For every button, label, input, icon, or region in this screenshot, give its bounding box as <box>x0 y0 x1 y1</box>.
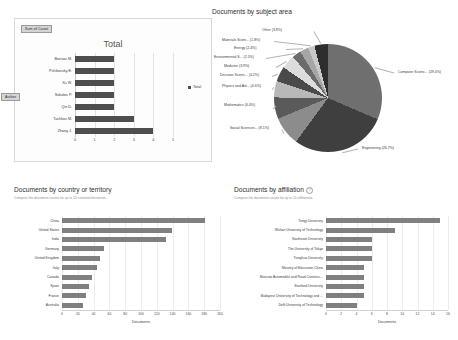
bar-category-label: Delft University of Technology <box>278 302 323 308</box>
bar-category-label: Stanford University <box>294 283 323 289</box>
bar <box>62 228 172 233</box>
bar-row[interactable]: United Kingdom <box>62 256 220 261</box>
bar <box>326 218 440 223</box>
bar <box>326 303 357 308</box>
pie-slice-label: Energy (2.4%) <box>234 46 256 51</box>
pivot-bar-row[interactable]: Sokolov P. <box>75 92 173 98</box>
pie-slice-label: Medicine (3.9%) <box>224 64 249 69</box>
bar-row[interactable]: China <box>62 218 220 223</box>
bar-row[interactable]: Tongji University <box>326 218 448 223</box>
bar-row[interactable]: Budapest University of Technology and ..… <box>326 293 448 298</box>
pivot-x-axis: 012345 <box>75 138 173 146</box>
pivot-author-field-tag[interactable]: Author <box>1 93 20 101</box>
pie-leader-line <box>314 31 321 43</box>
bar-row[interactable]: Southeast University <box>326 237 448 242</box>
legend-swatch-icon <box>188 86 191 89</box>
affiliation-title: Documents by affiliation? <box>234 186 313 194</box>
pivot-legend: Total <box>188 85 201 89</box>
bar-row[interactable]: United States <box>62 228 220 233</box>
bar-row[interactable]: Italy <box>62 265 220 270</box>
affiliation-x-axis: 0246810121416 <box>326 312 448 320</box>
bar-row[interactable]: Ministry of Education China <box>326 265 448 270</box>
pivot-x-tick: 2 <box>113 138 115 142</box>
affiliation-panel: Documents by affiliation? Compare the do… <box>234 186 456 336</box>
pivot-x-tick: 1 <box>94 138 96 142</box>
bar-row[interactable]: Moscow Automobile and Road Construc... <box>326 275 448 280</box>
bar <box>62 303 83 308</box>
pie-slice-label: Decision Scienc... (4.2%) <box>220 73 259 78</box>
x-tick-label: 8 <box>386 312 388 316</box>
bar <box>326 237 372 242</box>
pivot-bar-row[interactable]: Zhang J. <box>75 128 173 134</box>
pivot-bar-row[interactable]: Pshikovsky E. <box>75 68 173 74</box>
bar <box>326 275 364 280</box>
affiliation-x-axis-title: Documents <box>326 320 448 324</box>
bar <box>62 256 100 261</box>
pivot-bar-row[interactable]: Tachkov M. <box>75 116 173 122</box>
pie-slice-label: Social Sciences... (8.1%) <box>230 126 269 131</box>
pivot-chart-panel: Sum of Count Author Total Borisov M.Pshi… <box>14 18 212 162</box>
x-tick-label: 20 <box>76 312 80 316</box>
pivot-bar-row[interactable]: Qin D. <box>75 104 173 110</box>
bar-row[interactable]: France <box>62 293 220 298</box>
country-panel: Documents by country or territory Compar… <box>14 186 226 336</box>
pivot-bar <box>75 104 114 110</box>
bar-row[interactable]: Spain <box>62 284 220 289</box>
bar <box>326 228 395 233</box>
bar-row[interactable]: Australia <box>62 303 220 308</box>
pivot-x-tick: 5 <box>172 138 174 142</box>
x-tick-label: 140 <box>170 312 176 316</box>
x-tick-label: 6 <box>371 312 373 316</box>
bar-row[interactable]: India <box>62 237 220 242</box>
x-tick-label: 80 <box>123 312 127 316</box>
bar-row[interactable]: The University of Tokyo <box>326 246 448 251</box>
affiliation-header: Documents by affiliation? Compare the do… <box>234 186 313 200</box>
help-icon[interactable]: ? <box>306 187 313 194</box>
pivot-plot-area: Borisov M.Pshikovsky E.Xu W.Sokolov P.Qi… <box>75 53 173 137</box>
bar-row[interactable]: Stanford University <box>326 284 448 289</box>
x-tick-label: 120 <box>154 312 160 316</box>
bar-category-label: The University of Tokyo <box>288 246 323 252</box>
bar-category-label: Spain <box>50 283 59 289</box>
bar <box>62 265 97 270</box>
bar-category-label: Tsinghua University <box>294 255 323 261</box>
bar-category-label: Southeast University <box>292 236 323 242</box>
pivot-bar-row[interactable]: Borisov M. <box>75 56 173 62</box>
pie-slice-label: Environmental S... (2.5%) <box>214 55 254 60</box>
bar-row[interactable]: Canada <box>62 275 220 280</box>
affiliation-baseline <box>326 310 448 311</box>
pie-slice-label: Mathematics (6.0%) <box>224 103 255 108</box>
pie-graphic[interactable] <box>274 44 382 152</box>
affiliation-subtitle: Compare the document counts for up to 15… <box>234 196 313 200</box>
pivot-bar-row[interactable]: Xu W. <box>75 80 173 86</box>
bar-row[interactable]: Tsinghua University <box>326 256 448 261</box>
x-tick-label: 10 <box>400 312 404 316</box>
pivot-bar-label: Borisov M. <box>55 56 72 63</box>
subject-area-panel: Documents by subject area Computer Scien… <box>212 8 456 173</box>
x-tick-label: 2 <box>340 312 342 316</box>
x-tick-label: 180 <box>201 312 207 316</box>
country-baseline <box>62 310 220 311</box>
country-title: Documents by country or territory <box>14 186 111 193</box>
pie-slice-label: Other (3.8%) <box>262 28 282 33</box>
subject-area-header: Documents by subject area <box>212 8 292 15</box>
country-x-axis: 020406080100120140160180200 <box>62 312 220 320</box>
pivot-bar-label: Xu W. <box>62 80 72 87</box>
country-header: Documents by country or territory Compar… <box>14 186 111 200</box>
bar-row[interactable]: Germany <box>62 246 220 251</box>
pie-slice-label: Computer Scienc... (29.4%) <box>398 70 441 75</box>
pivot-x-tick: 4 <box>152 138 154 142</box>
country-subtitle: Compare the document counts for up to 15… <box>14 196 111 200</box>
bar-row[interactable]: Wuhan University of Technology <box>326 228 448 233</box>
bar <box>326 246 372 251</box>
bar <box>62 284 89 289</box>
pivot-bar <box>75 68 114 74</box>
bar-row[interactable]: Delft University of Technology <box>326 303 448 308</box>
pivot-sum-field-tag[interactable]: Sum of Count <box>21 25 52 33</box>
bar <box>62 246 104 251</box>
pivot-bar <box>75 92 114 98</box>
subject-area-pie <box>274 44 382 152</box>
x-tick-label: 14 <box>431 312 435 316</box>
country-plot-area: ChinaUnited StatesIndiaGermanyUnited Kin… <box>62 216 220 310</box>
bar-category-label: Moscow Automobile and Road Construc... <box>260 274 323 280</box>
